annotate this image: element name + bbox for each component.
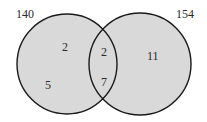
left-set-label: 140 [16,8,34,20]
left-only-value-2: 5 [45,79,51,91]
left-only-value-1: 2 [62,41,68,53]
right-set-label: 154 [176,8,194,20]
right-only-value: 11 [147,50,159,62]
intersection-value-2: 7 [101,76,107,88]
intersection-value-1: 2 [101,46,107,58]
